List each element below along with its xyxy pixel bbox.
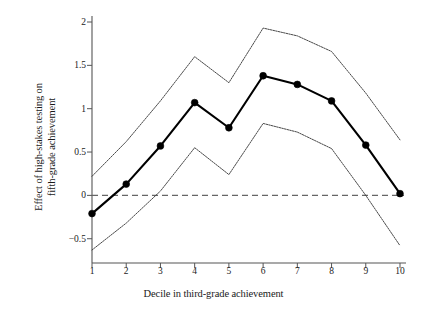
data-point-marker	[123, 181, 130, 188]
y-axis-tick-label: 1	[56, 104, 86, 114]
series-confidence-bound-line	[92, 123, 400, 250]
x-axis-tick-label: 1	[90, 266, 95, 276]
y-axis-tick-label: 1.5	[56, 60, 86, 70]
data-point-marker	[89, 210, 96, 217]
data-point-marker	[191, 99, 198, 106]
data-point-marker	[260, 72, 267, 79]
data-point-marker	[328, 97, 335, 104]
y-axis-tick-label: −0.5	[56, 234, 86, 244]
data-point-marker	[157, 143, 164, 150]
series-point-estimate-line	[92, 76, 400, 214]
figure-chart-effect-of-high-stakes-testing: Effect of high-stakes testing on fifth-g…	[0, 0, 427, 313]
x-axis-tick-label: 4	[192, 266, 197, 276]
y-axis-tick-label: 0	[56, 190, 86, 200]
y-axis-tick-label: 0.5	[56, 147, 86, 157]
data-point-marker	[225, 124, 232, 131]
data-point-marker	[397, 190, 404, 197]
x-axis-tick-label: 7	[295, 266, 300, 276]
x-axis-tick-label: 9	[363, 266, 368, 276]
x-axis-tick-label: 2	[124, 266, 129, 276]
x-axis-tick-label: 10	[395, 266, 405, 276]
x-axis-tick-label: 6	[261, 266, 266, 276]
data-point-marker	[294, 81, 301, 88]
x-axis-title: Decile in third-grade achievement	[0, 288, 427, 299]
x-axis-tick-label: 5	[227, 266, 232, 276]
y-axis-tick-label: 2	[56, 17, 86, 27]
x-axis-tick-label: 8	[329, 266, 334, 276]
y-axis-title-line1: Effect of high-stakes testing on	[32, 22, 45, 272]
data-point-marker	[362, 142, 369, 149]
x-axis-tick-label: 3	[158, 266, 163, 276]
